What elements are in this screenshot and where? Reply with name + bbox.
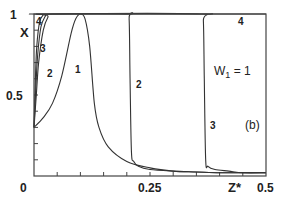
- param-w: W: [214, 64, 226, 78]
- curve-label-3-right: 3: [210, 120, 216, 131]
- curve-2: [34, 13, 266, 173]
- chart: 1 0.5 0 0.25 0.5 X Z* W1 = 1 (b) 4 3 2 1…: [0, 0, 283, 201]
- curve-3: [34, 13, 266, 172]
- x-tick-label-0-25: 0.25: [138, 181, 162, 195]
- curve-label-4-right: 4: [238, 16, 244, 27]
- panel-label: (b): [245, 118, 260, 132]
- param-value: = 1: [230, 64, 251, 78]
- axis-ticks: [34, 30, 243, 176]
- curve-label-1: 1: [75, 64, 81, 75]
- x-axis-title: Z*: [228, 180, 242, 195]
- curves: [29, 13, 266, 173]
- x-tick-label-0-5: 0.5: [257, 181, 274, 195]
- x-tick-label-0: 0: [20, 181, 27, 195]
- y-tick-label-1: 1: [10, 8, 17, 22]
- curve-label-3-left: 3: [40, 43, 46, 54]
- y-axis-title: X: [20, 25, 29, 40]
- curve-label-2-right: 2: [136, 79, 142, 90]
- parameter-annotation: W1 = 1: [214, 64, 251, 80]
- plot-frame: [34, 14, 266, 176]
- y-tick-label-0-5: 0.5: [6, 89, 23, 103]
- curve-1: [34, 14, 266, 173]
- curve-label-2-left: 2: [47, 68, 53, 79]
- curve-label-4-left: 4: [36, 16, 42, 27]
